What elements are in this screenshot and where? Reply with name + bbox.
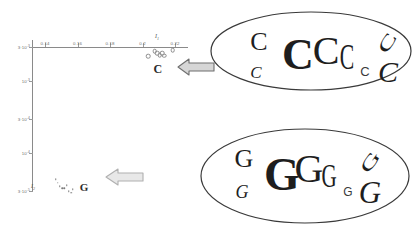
y-axis-label: I2	[31, 183, 35, 191]
callout-glyph-c-7: C	[378, 57, 398, 87]
y-tick-mark	[29, 191, 33, 192]
scatter-plot: 0.140.160.180.20.22 3·10-310-33·10-410-4…	[0, 0, 210, 242]
data-point-g	[66, 184, 68, 186]
cluster-label-g: G	[80, 181, 89, 193]
callout-glyph-c-3: C	[313, 31, 340, 71]
x-tick-label: 0.16	[73, 41, 82, 46]
data-point-g	[70, 192, 72, 194]
callout-glyph-g-3: G	[295, 149, 324, 189]
y-tick-mark	[29, 119, 33, 120]
callout-glyph-c-5: C	[360, 65, 369, 78]
callout-glyph-c-4: C	[340, 40, 354, 75]
callout-c: CCCCCCCC	[208, 9, 414, 93]
callout-glyph-c-0: C	[250, 29, 267, 55]
y-tick-mark	[29, 81, 33, 82]
y-tick-mark	[29, 47, 33, 48]
callout-glyph-g-5: G	[343, 186, 352, 198]
data-point-g	[72, 188, 74, 190]
callout-glyph-g-7: G	[359, 177, 381, 208]
cluster-label-c: C	[154, 61, 163, 76]
callout-glyph-c-1: C	[250, 64, 261, 81]
data-point-g	[68, 190, 70, 192]
data-point-g	[63, 188, 65, 190]
data-point-c	[162, 53, 167, 58]
x-tick-label: 0.22	[171, 41, 180, 46]
callout-g: GGGGGGGG	[198, 126, 412, 226]
callout-glyph-g-4: G	[321, 159, 336, 193]
data-point-g	[55, 178, 57, 180]
x-axis-label: I1	[155, 33, 159, 41]
y-axis-line	[32, 40, 33, 192]
scatter-figure-with-callouts: 0.140.160.180.20.22 3·10-310-33·10-410-4…	[0, 0, 420, 242]
x-tick-label: 0.2	[139, 41, 145, 46]
data-point-g	[57, 182, 59, 184]
y-tick-mark	[29, 153, 33, 154]
x-tick-label: 0.14	[41, 41, 50, 46]
callout-glyph-c-2: C	[282, 33, 314, 77]
callout-glyph-g-0: G	[235, 146, 254, 172]
data-point-c	[146, 54, 151, 59]
y-axis-ticks: 3·10-310-33·10-410-43·10-5	[0, 0, 30, 242]
x-tick-label: 0.18	[106, 41, 115, 46]
data-point-c	[170, 48, 175, 53]
x-axis-line	[32, 47, 188, 48]
callout-arrow-g	[104, 166, 146, 188]
callout-glyph-g-1: G	[236, 183, 249, 201]
